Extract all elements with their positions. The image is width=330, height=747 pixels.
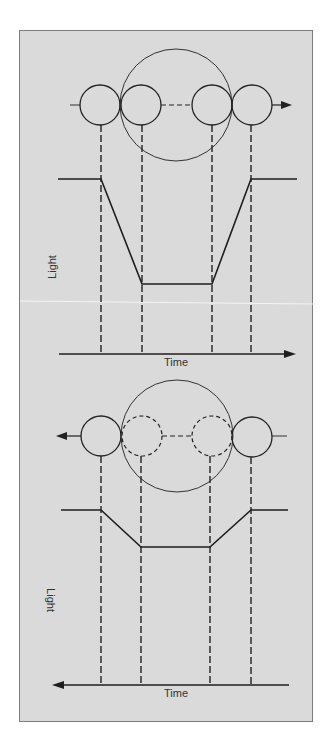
arrow-right-icon [281, 101, 292, 109]
bottom-diagram: Light Time [45, 380, 289, 699]
small-body-position-4 [232, 85, 272, 125]
bottom-x-axis-label: Time [164, 687, 188, 699]
small-body-position-1 [81, 416, 121, 456]
time-arrow-left-icon [52, 681, 64, 689]
small-body-hidden-position-2 [122, 416, 162, 456]
top-diagram: Light Time [46, 49, 297, 368]
bottom-light-curve [61, 510, 288, 547]
eclipse-diagram: Light Time Light Time [0, 0, 330, 747]
top-light-curve [58, 179, 297, 284]
small-body-position-4 [232, 417, 272, 457]
small-body-position-2 [121, 85, 161, 125]
time-arrow-right-icon [284, 350, 296, 358]
large-star-circle [120, 49, 232, 161]
bottom-y-axis-label: Light [45, 588, 57, 612]
small-body-hidden-position-3 [192, 416, 232, 456]
bottom-orbit-schematic [56, 380, 287, 492]
large-star-circle [121, 380, 233, 492]
small-body-position-1 [80, 85, 120, 125]
scratch-line [20, 301, 313, 304]
top-orbit-schematic [70, 49, 292, 161]
bottom-dashed-guides [101, 456, 251, 685]
arrow-left-icon [56, 432, 67, 440]
small-body-position-3 [192, 85, 232, 125]
top-y-axis-label: Light [46, 255, 58, 279]
top-x-axis-label: Time [164, 356, 188, 368]
